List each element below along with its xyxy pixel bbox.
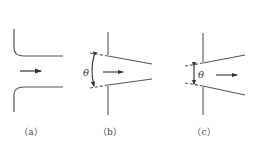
panel-a-rounded-inlet [14, 29, 63, 112]
theta-label-b: θ [83, 67, 89, 78]
caption-c: （c） [192, 125, 215, 138]
lower-wall [14, 87, 63, 112]
angle-arc [92, 56, 94, 86]
panel-b-converging-inlet [90, 32, 152, 115]
panel-c-diverging-inlet [185, 33, 245, 115]
caption-a: （a） [19, 125, 42, 138]
theta-label-c: θ [198, 69, 204, 80]
upper-wall [14, 29, 63, 56]
caption-b: （b） [98, 125, 122, 138]
